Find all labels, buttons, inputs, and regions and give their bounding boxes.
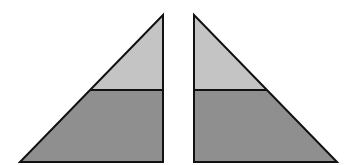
left-triangle [20, 15, 163, 162]
diagram-canvas [0, 0, 349, 165]
right-triangle-bottom-dark [194, 90, 337, 162]
right-triangle [194, 15, 337, 162]
left-triangle-bottom-dark [20, 90, 163, 162]
